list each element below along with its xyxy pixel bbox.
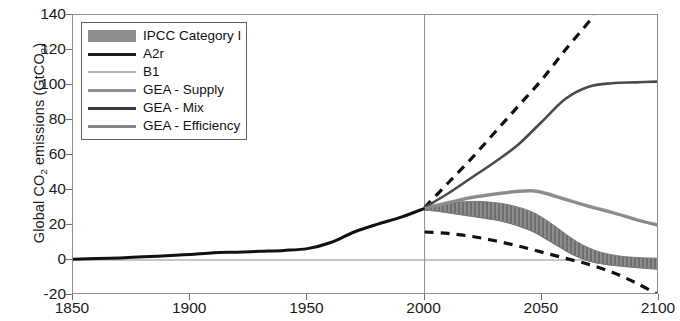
- y-tick-label: 20: [49, 216, 66, 232]
- y-tick-label: 60: [49, 146, 66, 162]
- legend-swatch-icon: [86, 81, 138, 99]
- legend-key-mark: [88, 53, 136, 56]
- x-tick-label: 1950: [278, 300, 334, 316]
- y-tick-label: 140: [40, 6, 66, 22]
- y-tick-label: 120: [40, 41, 66, 57]
- legend-item-label: A2r: [143, 47, 164, 61]
- legend-item-label: B1: [143, 65, 160, 79]
- legend-item-label: GEA - Supply: [143, 83, 224, 97]
- legend-swatch-icon: [86, 117, 138, 135]
- y-axis-title-prefix: Global CO: [31, 175, 47, 244]
- chart-legend: IPCC Category IA2rB1GEA - SupplyGEA - Mi…: [81, 22, 247, 140]
- legend-key-mark: [88, 71, 136, 73]
- legend-key-mark: [88, 125, 136, 128]
- legend-item-label: GEA - Efficiency: [143, 119, 240, 133]
- legend-swatch-icon: [86, 99, 138, 117]
- legend-item[interactable]: GEA - Efficiency: [86, 117, 241, 135]
- legend-item[interactable]: IPCC Category I: [86, 27, 241, 45]
- legend-item[interactable]: B1: [86, 63, 241, 81]
- y-tick-label: 40: [49, 181, 66, 197]
- series-historical: [73, 208, 425, 259]
- legend-item[interactable]: GEA - Supply: [86, 81, 241, 99]
- series-a2r: [425, 15, 594, 208]
- legend-swatch-icon: [86, 63, 138, 81]
- series-gea_mix: [425, 82, 658, 208]
- x-tick-label: 1850: [44, 300, 100, 316]
- legend-key-mark: [88, 107, 136, 110]
- legend-swatch-icon: [86, 27, 138, 45]
- legend-key-mark: [88, 89, 136, 92]
- legend-key-mark: [88, 30, 136, 42]
- x-tick-label: 2050: [513, 300, 569, 316]
- x-tick-label: 2100: [630, 300, 680, 316]
- legend-item-label: GEA - Mix: [143, 101, 204, 115]
- legend-item[interactable]: A2r: [86, 45, 241, 63]
- y-axis-title-sub-1: 2: [38, 169, 49, 174]
- legend-item[interactable]: GEA - Mix: [86, 99, 241, 117]
- y-axis-title-mid: emissions (GtCO: [31, 53, 47, 169]
- legend-item-label: IPCC Category I: [143, 29, 241, 43]
- x-tick-label: 1900: [161, 300, 217, 316]
- y-tick-label: 0: [57, 251, 66, 267]
- y-tick-label: 100: [40, 76, 66, 92]
- y-tick-label: 80: [49, 111, 66, 127]
- legend-swatch-icon: [86, 45, 138, 63]
- x-tick-label: 2000: [396, 300, 452, 316]
